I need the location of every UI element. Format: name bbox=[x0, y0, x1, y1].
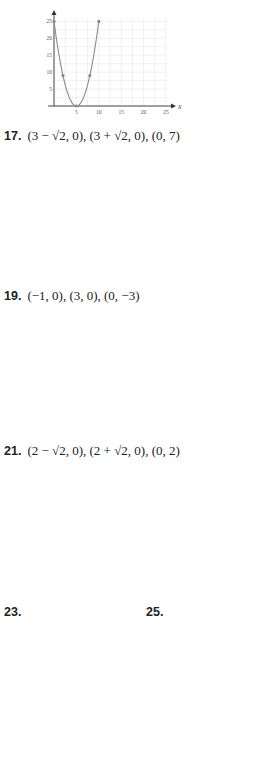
answer-19-label: 19.(−1, 0), (3, 0), (0, −3) bbox=[4, 288, 140, 304]
data-point bbox=[75, 104, 78, 107]
graph-0: x510152025510152025 bbox=[40, 8, 180, 116]
svg-text:25: 25 bbox=[163, 109, 169, 115]
answer-text: (3 − √2, 0), (3 + √2, 0), (0, 7) bbox=[27, 128, 179, 143]
answer-25-label: 25. bbox=[146, 604, 169, 620]
answer-number: 17. bbox=[4, 129, 21, 143]
svg-text:25: 25 bbox=[47, 18, 53, 24]
answer-21-label: 21.(2 − √2, 0), (2 + √2, 0), (0, 2) bbox=[4, 443, 180, 459]
x-axis-arrow-icon bbox=[171, 104, 176, 109]
svg-text:x: x bbox=[177, 102, 182, 111]
answer-number: 23. bbox=[4, 605, 21, 619]
svg-text:15: 15 bbox=[47, 52, 53, 58]
data-point bbox=[97, 20, 100, 23]
answer-17-label: 17.(3 − √2, 0), (3 + √2, 0), (0, 7) bbox=[4, 128, 180, 144]
svg-text:15: 15 bbox=[118, 109, 124, 115]
svg-text:20: 20 bbox=[47, 35, 53, 41]
answer-text: (2 − √2, 0), (2 + √2, 0), (0, 2) bbox=[27, 443, 179, 458]
answer-number: 19. bbox=[4, 289, 21, 303]
answer-text: (−1, 0), (3, 0), (0, −3) bbox=[27, 288, 139, 303]
data-point bbox=[52, 20, 55, 23]
svg-text:10: 10 bbox=[96, 109, 102, 115]
svg-text:5: 5 bbox=[49, 86, 52, 92]
answer-number: 25. bbox=[146, 605, 163, 619]
data-point bbox=[88, 74, 91, 77]
answer-number: 21. bbox=[4, 444, 21, 458]
svg-text:20: 20 bbox=[141, 109, 147, 115]
answer-23-label: 23. bbox=[4, 604, 27, 620]
y-axis-arrow-icon bbox=[52, 10, 57, 15]
svg-text:10: 10 bbox=[47, 69, 53, 75]
data-point bbox=[61, 74, 64, 77]
svg-text:5: 5 bbox=[75, 109, 78, 115]
